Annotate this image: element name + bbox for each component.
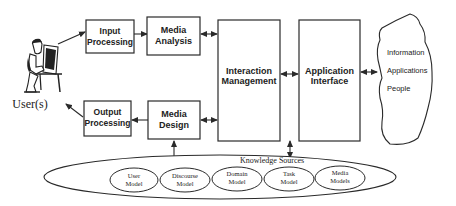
media-analysis-label-2: Analysis: [155, 36, 192, 46]
architecture-diagram: User(s) Input Processing Media Analysis …: [0, 0, 456, 206]
input-processing-label-1: Input: [100, 26, 121, 36]
user-icon: [24, 39, 62, 92]
application-interface-label-2: Interface: [311, 76, 349, 86]
model-domain: Domain Model: [212, 167, 262, 191]
media-design-label-1: Media: [161, 109, 188, 119]
user-label: User(s): [12, 97, 47, 111]
interaction-management-label-1: Interaction: [226, 66, 272, 76]
input-processing-label-2: Processing: [87, 37, 133, 47]
model-media-label-2: Models: [330, 177, 350, 184]
cloud-item-people: People: [387, 84, 410, 93]
model-task-label-1: Task: [283, 170, 296, 177]
model-task: Task Model: [264, 167, 314, 191]
external-world-cloud: [377, 14, 432, 144]
media-design-label-2: Design: [159, 120, 189, 130]
model-media-label-1: Media: [332, 169, 349, 176]
knowledge-sources-title: Knowledge Sources: [240, 156, 304, 165]
model-domain-label-2: Model: [229, 178, 246, 185]
model-discourse: Discourse Model: [160, 168, 210, 192]
model-task-label-2: Model: [281, 178, 298, 185]
model-user: User Model: [110, 168, 158, 192]
arrow-output-to-user: [66, 104, 83, 117]
cloud-item-information: Information: [387, 48, 425, 57]
interaction-management-label-2: Management: [221, 76, 276, 86]
output-processing-label-1: Output: [94, 107, 122, 117]
arrow-user-to-input: [58, 32, 85, 44]
model-media: Media Models: [315, 166, 365, 190]
model-user-label-1: User: [128, 172, 141, 179]
model-discourse-label-1: Discourse: [172, 172, 198, 179]
model-domain-label-1: Domain: [227, 170, 249, 177]
media-analysis-label-1: Media: [161, 25, 188, 35]
application-interface-label-1: Application: [305, 66, 354, 76]
cloud-item-applications: Applications: [387, 66, 428, 75]
model-discourse-label-2: Model: [177, 180, 194, 187]
model-user-label-2: Model: [126, 180, 143, 187]
output-processing-label-2: Processing: [85, 118, 131, 128]
